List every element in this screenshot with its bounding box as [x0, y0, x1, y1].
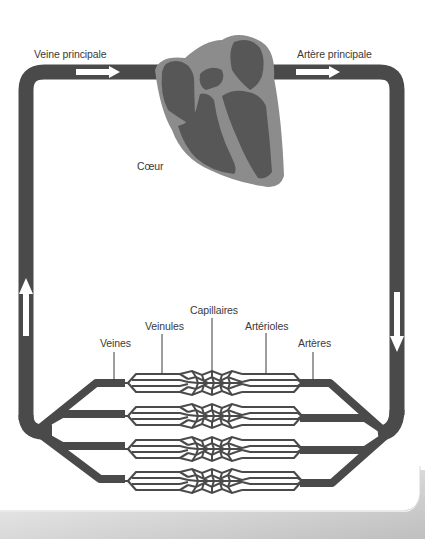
main-vein-pipe	[26, 72, 158, 420]
circulation-diagram: Veine principale Artère principale Cœur …	[0, 0, 425, 539]
main-vein-label: Veine principale	[34, 48, 107, 60]
veins-branches	[40, 383, 125, 479]
capillary-beds	[118, 371, 312, 493]
venules-label: Veinules	[145, 320, 184, 332]
arteries-branches	[300, 383, 385, 483]
capillaries-label: Capillaires	[190, 304, 238, 316]
capillary-bed-4	[118, 469, 312, 493]
heart-illustration	[155, 35, 284, 187]
veins-label: Veines	[100, 337, 131, 349]
capillary-bed-3	[118, 437, 312, 461]
capillary-bed-1	[118, 371, 312, 395]
arterioles-label: Artérioles	[245, 320, 288, 332]
main-artery-label: Artère principale	[297, 48, 372, 60]
heart-label: Cœur	[137, 160, 163, 172]
diagram-canvas	[0, 0, 425, 539]
arteries-label: Artères	[298, 337, 331, 349]
main-artery-pipe	[264, 72, 397, 415]
capillary-bed-2	[118, 404, 312, 428]
